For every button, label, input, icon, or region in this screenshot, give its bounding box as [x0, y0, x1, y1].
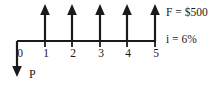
period-label-5: 5: [153, 47, 159, 59]
inflow-arrow-period-4: [122, 4, 132, 41]
period-label-3: 3: [98, 47, 104, 59]
inflow-arrow-period-5: [150, 4, 160, 41]
inflow-arrow-period-1: [40, 4, 50, 41]
inflow-arrow-period-3: [95, 4, 105, 41]
period-label-0: 0: [17, 47, 23, 59]
period-label-1: 1: [43, 47, 49, 59]
future-value-label: F = $500: [166, 6, 208, 18]
cash-flow-diagram: 0 1 2 3 4 5 F = $500 i = 6% P: [0, 0, 221, 87]
inflow-arrow-period-2: [67, 4, 77, 41]
cash-flow-timeline-graphic: 0 1 2 3 4 5 F = $500 i = 6% P: [0, 0, 221, 87]
interest-rate-label: i = 6%: [166, 33, 197, 45]
present-value-label: P: [29, 67, 36, 81]
period-label-2: 2: [70, 47, 76, 59]
period-label-4: 4: [125, 47, 131, 59]
